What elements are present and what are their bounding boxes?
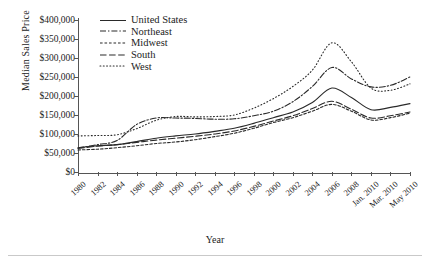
x-tick-mark [234, 172, 235, 176]
y-tick-label: $350,000 [39, 34, 75, 44]
x-tick-mark [410, 172, 411, 176]
x-tick-label: 1984 [107, 179, 126, 198]
y-tick-label: $50,000 [44, 148, 75, 158]
chart-figure: Median Sales Price $400,000$350,000$300,… [0, 0, 430, 267]
x-tick-label: 2006 [322, 179, 341, 198]
x-axis-title: Year [0, 234, 430, 245]
legend-item-south: South [100, 49, 187, 61]
legend-swatch [100, 15, 126, 25]
x-tick-mark [98, 172, 99, 176]
legend-swatch [100, 38, 126, 48]
legend-item-midwest: Midwest [100, 37, 187, 49]
x-tick-mark [371, 172, 372, 176]
x-tick-mark [332, 172, 333, 176]
x-tick-mark [390, 172, 391, 176]
y-tick-label: $100,000 [39, 129, 75, 139]
legend-item-northeast: Northeast [100, 26, 187, 38]
x-tick-mark [293, 172, 294, 176]
x-tick-label: 1996 [225, 179, 244, 198]
x-tick-mark [195, 172, 196, 176]
y-tick-label: $400,000 [39, 15, 75, 25]
chart-legend: United StatesNortheastMidwestSouthWest [100, 14, 187, 72]
x-axis-line [78, 173, 411, 174]
legend-item-west: West [100, 60, 187, 72]
x-tick-mark [215, 172, 216, 176]
x-tick-label: 1990 [166, 179, 185, 198]
legend-label: West [131, 61, 152, 72]
legend-label: Northeast [131, 26, 172, 37]
y-tick-label: $300,000 [39, 53, 75, 63]
x-tick-mark [273, 172, 274, 176]
x-tick-mark [78, 172, 79, 176]
y-tick-label: $200,000 [39, 91, 75, 101]
x-tick-mark [254, 172, 255, 176]
footer-divider [8, 255, 422, 256]
legend-swatch [100, 26, 126, 36]
x-tick-label: 1982 [88, 179, 107, 198]
legend-item-united-states: United States [100, 14, 187, 26]
x-tick-mark [312, 172, 313, 176]
x-tick-label: 1986 [127, 179, 146, 198]
series-line-northeast [78, 67, 410, 148]
y-tick-label: $150,000 [39, 110, 75, 120]
legend-label: United States [131, 14, 187, 25]
legend-swatch [100, 50, 126, 60]
y-tick-label: $250,000 [39, 72, 75, 82]
x-tick-label: 1994 [205, 179, 224, 198]
legend-label: South [131, 49, 156, 60]
x-tick-label: 2000 [264, 179, 283, 198]
x-tick-label: 2004 [303, 179, 322, 198]
x-tick-mark [117, 172, 118, 176]
x-tick-mark [176, 172, 177, 176]
x-tick-label: 2002 [283, 179, 302, 198]
legend-swatch [100, 61, 126, 71]
x-tick-label: 1998 [244, 179, 263, 198]
y-axis-title: Median Sales Price [20, 0, 31, 131]
x-tick-mark [137, 172, 138, 176]
series-line-south [78, 101, 410, 148]
x-tick-mark [351, 172, 352, 176]
x-tick-label: 1980 [68, 179, 87, 198]
legend-label: Midwest [131, 37, 168, 48]
x-tick-label: 1988 [146, 179, 165, 198]
x-tick-label: 1992 [186, 179, 205, 198]
x-tick-mark [156, 172, 157, 176]
